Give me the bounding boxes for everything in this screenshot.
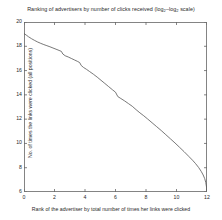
y-tick-label: 8 — [19, 165, 22, 170]
chart-title-middle: –log — [166, 6, 176, 12]
x-tick-label: 6 — [114, 195, 117, 200]
x-tick-label: 10 — [174, 195, 180, 200]
y-tick-label: 14 — [16, 92, 22, 97]
chart-title-before: Ranking of advertisers by number of clic… — [27, 6, 163, 12]
y-tick-label: 10 — [16, 141, 22, 146]
x-axis-label: Rank of the advertiser by total number o… — [0, 206, 222, 212]
chart-title: Ranking of advertisers by number of clic… — [0, 6, 222, 14]
y-tick-label: 20 — [16, 19, 22, 24]
x-tick-label: 4 — [84, 195, 87, 200]
plot-area: 68101214161820 024681012 No. of times th… — [24, 22, 207, 192]
chart-title-after: scale) — [179, 6, 195, 12]
x-tick-label: 12 — [204, 195, 210, 200]
y-tick-label: 12 — [16, 117, 22, 122]
x-tick-label: 8 — [145, 195, 148, 200]
plot-svg — [24, 22, 207, 192]
y-tick-label: 18 — [16, 44, 22, 49]
y-tick-label: 16 — [16, 68, 22, 73]
y-axis-label: No. of times the links were clicked (all… — [27, 23, 33, 183]
x-tick-label: 2 — [53, 195, 56, 200]
x-tick-label: 0 — [23, 195, 26, 200]
figure-canvas: Ranking of advertisers by number of clic… — [0, 0, 222, 220]
